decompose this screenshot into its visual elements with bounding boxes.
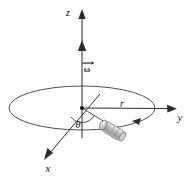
y-axis-line [82,108,170,109]
radius-label: r [120,98,124,109]
x-axis-line [49,94,100,154]
physics-diagram-figure: z y x r θ ω [0,0,188,177]
angular-velocity-label-group: ω [83,61,95,74]
y-axis-arrow-icon [167,105,177,113]
theta-angle-label: θ [76,119,81,130]
y-axis-label: y [177,111,183,123]
diagram-canvas: z y x r θ ω [0,0,188,177]
bead [98,119,128,143]
x-axis-arrow-icon [44,148,53,160]
z-axis-label: z [65,6,71,18]
z-axis-arrow-icon [78,9,85,19]
angular-velocity-arrow-icon [78,40,86,51]
x-axis-label: x [45,162,51,174]
origin-point [80,106,84,110]
omega-overbar [83,63,92,64]
angular-velocity-label: ω [84,64,91,74]
omega-overbar-arrow-icon [92,61,95,65]
